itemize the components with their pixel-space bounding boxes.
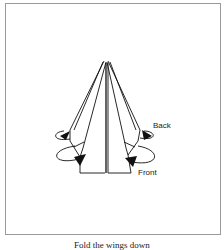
figure-caption: Fold the wings down xyxy=(0,240,224,250)
right-wing-outline xyxy=(108,61,140,173)
left-wing-outline xyxy=(70,61,105,173)
right-front-arrowhead-icon xyxy=(125,156,137,167)
front-label: Front xyxy=(138,168,157,177)
left-back-arrowhead-icon xyxy=(60,131,70,140)
back-label: Back xyxy=(153,121,171,130)
